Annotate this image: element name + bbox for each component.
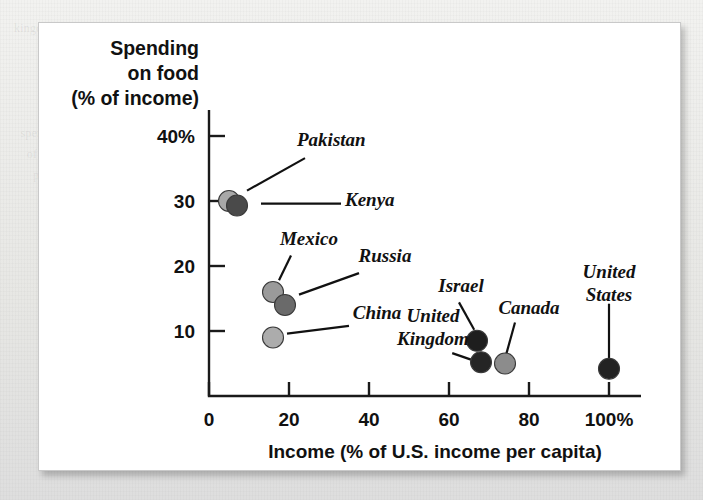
scatter-chart: 10203040%020406080100%Spendingon food(% … xyxy=(39,23,680,470)
point-label-line: Kenya xyxy=(344,189,395,210)
point-label-israel: Israel xyxy=(437,275,484,296)
point-label-pakistan: Pakistan xyxy=(296,129,366,150)
point-label-kenya: Kenya xyxy=(344,189,395,210)
point-label-line: China xyxy=(353,302,402,323)
leader-line-canada xyxy=(506,323,515,355)
point-label-line: Israel xyxy=(437,275,484,296)
data-point-russia[interactable] xyxy=(275,295,296,316)
x-tick-label-0: 0 xyxy=(204,409,215,430)
point-label-united-states: UnitedStates xyxy=(583,261,636,305)
y-tick-label-40%: 40% xyxy=(157,126,195,147)
data-point-united-states[interactable] xyxy=(599,358,620,379)
chart-axes xyxy=(209,110,641,396)
point-label-line: United xyxy=(583,261,636,282)
leader-line-pakistan xyxy=(247,158,305,191)
leader-line-china xyxy=(287,326,349,334)
x-tick-label-40: 40 xyxy=(358,409,379,430)
leader-line-united-kingdom xyxy=(452,353,471,360)
data-point-israel[interactable] xyxy=(467,330,488,351)
y-tick-label-20: 20 xyxy=(174,256,195,277)
y-axis-title-line-1: Spending xyxy=(110,37,199,59)
y-axis-title-line-3: (% of income) xyxy=(71,87,199,109)
y-axis-title-line-2: on food xyxy=(128,62,199,84)
point-label-united-kingdom: UnitedKingdom xyxy=(396,305,469,349)
point-label-line: Kingdom xyxy=(396,328,469,349)
data-point-canada[interactable] xyxy=(495,353,516,374)
point-label-china: China xyxy=(353,302,402,323)
data-point-united-kingdom[interactable] xyxy=(471,352,492,373)
leader-line-russia xyxy=(299,273,359,294)
point-label-line: United xyxy=(407,305,460,326)
scatter-plot-figure-card: 10203040%020406080100%Spendingon food(% … xyxy=(38,22,681,471)
y-tick-label-10: 10 xyxy=(174,321,195,342)
point-label-russia: Russia xyxy=(358,245,412,266)
leader-line-israel xyxy=(459,302,474,329)
x-tick-label-60: 60 xyxy=(438,409,459,430)
leader-line-mexico xyxy=(279,256,291,281)
point-label-line: States xyxy=(586,284,632,305)
scatter-plot-area: 10203040%020406080100%Spendingon food(% … xyxy=(39,23,680,470)
x-tick-label-100%: 100% xyxy=(585,409,634,430)
point-label-mexico: Mexico xyxy=(279,228,338,249)
point-label-line: Pakistan xyxy=(296,129,366,150)
x-tick-label-20: 20 xyxy=(278,409,299,430)
data-point-kenya[interactable] xyxy=(227,195,248,216)
point-label-canada: Canada xyxy=(498,297,560,318)
point-label-line: Russia xyxy=(358,245,412,266)
point-label-line: Canada xyxy=(498,297,560,318)
y-tick-label-30: 30 xyxy=(174,191,195,212)
x-tick-label-80: 80 xyxy=(518,409,539,430)
data-point-china[interactable] xyxy=(263,327,284,348)
x-axis-title: Income (% of U.S. income per capita) xyxy=(268,441,602,462)
point-label-line: Mexico xyxy=(279,228,338,249)
